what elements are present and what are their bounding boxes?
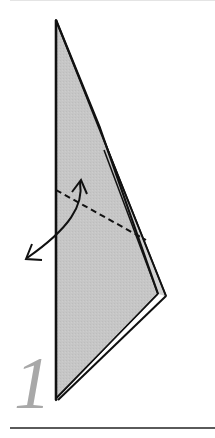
bottom-divider xyxy=(10,427,215,429)
step-number: 1 xyxy=(14,346,51,420)
paper-shape xyxy=(56,20,158,400)
